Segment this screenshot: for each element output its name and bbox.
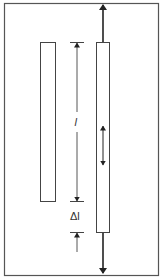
length-dimension [70, 43, 84, 202]
elongation-dimension [70, 233, 84, 253]
diagram-frame [5, 4, 159, 276]
elongation-label: Δl [70, 210, 80, 222]
length-label: l [75, 116, 78, 128]
tensile-elongation-diagram: l Δl [0, 0, 163, 280]
original-bar [41, 43, 56, 202]
